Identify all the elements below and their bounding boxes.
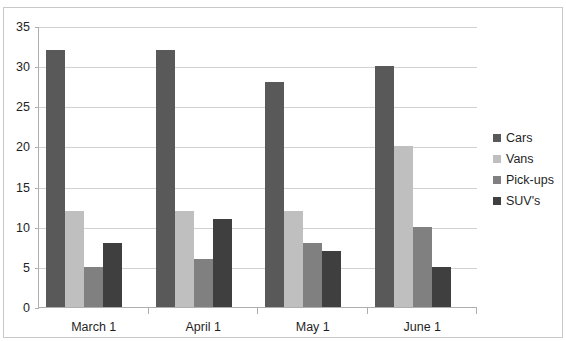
y-axis-label: 5 — [23, 261, 30, 275]
y-axis-label: 25 — [16, 100, 30, 114]
clipped-chart-title — [0, 0, 566, 5]
x-axis-tick — [148, 307, 149, 314]
bar[interactable] — [303, 243, 322, 307]
bar-group: June 1 — [368, 27, 478, 307]
y-axis-tick — [35, 308, 39, 309]
plot-area: 05101520253035 March 1April 1May 1June 1 — [38, 27, 477, 308]
bar[interactable] — [175, 211, 194, 307]
y-axis-label: 0 — [23, 301, 30, 315]
bar[interactable] — [84, 267, 103, 307]
x-axis-tick — [476, 307, 477, 314]
bar-group: April 1 — [149, 27, 259, 307]
x-axis-label: June 1 — [368, 320, 478, 334]
bar[interactable] — [103, 243, 122, 307]
legend-swatch-icon — [493, 134, 501, 142]
x-axis-tick — [367, 307, 368, 314]
chart-legend: CarsVansPick-upsSUV's — [493, 127, 557, 211]
bar[interactable] — [432, 267, 451, 307]
y-axis-label: 30 — [16, 60, 30, 74]
bar[interactable] — [322, 251, 341, 307]
bar[interactable] — [194, 259, 213, 307]
y-axis-label: 20 — [16, 140, 30, 154]
bar-group: May 1 — [258, 27, 368, 307]
bar[interactable] — [265, 82, 284, 307]
bar[interactable] — [284, 211, 303, 307]
bar[interactable] — [46, 50, 65, 307]
legend-item[interactable]: Pick-ups — [493, 169, 557, 190]
legend-item[interactable]: Vans — [493, 148, 557, 169]
bar[interactable] — [156, 50, 175, 307]
legend-label: Cars — [506, 131, 532, 145]
bar[interactable] — [413, 227, 432, 307]
chart-container: 05101520253035 March 1April 1May 1June 1… — [0, 0, 566, 341]
x-axis-tick — [257, 307, 258, 314]
bar[interactable] — [375, 66, 394, 307]
y-axis-label: 35 — [16, 20, 30, 34]
x-axis-label: May 1 — [258, 320, 368, 334]
bar-group: March 1 — [39, 27, 149, 307]
legend-swatch-icon — [493, 197, 501, 205]
legend-label: Vans — [506, 152, 534, 166]
bar-groups: March 1April 1May 1June 1 — [39, 27, 477, 307]
x-axis-label: March 1 — [39, 320, 149, 334]
legend-label: SUV's — [506, 194, 540, 208]
legend-swatch-icon — [493, 176, 501, 184]
legend-item[interactable]: Cars — [493, 127, 557, 148]
x-axis-label: April 1 — [149, 320, 259, 334]
legend-item[interactable]: SUV's — [493, 190, 557, 211]
bar[interactable] — [213, 219, 232, 307]
bar[interactable] — [65, 211, 84, 307]
legend-swatch-icon — [493, 155, 501, 163]
bar[interactable] — [394, 146, 413, 307]
y-axis-label: 15 — [16, 181, 30, 195]
y-axis-label: 10 — [16, 221, 30, 235]
legend-label: Pick-ups — [506, 173, 554, 187]
